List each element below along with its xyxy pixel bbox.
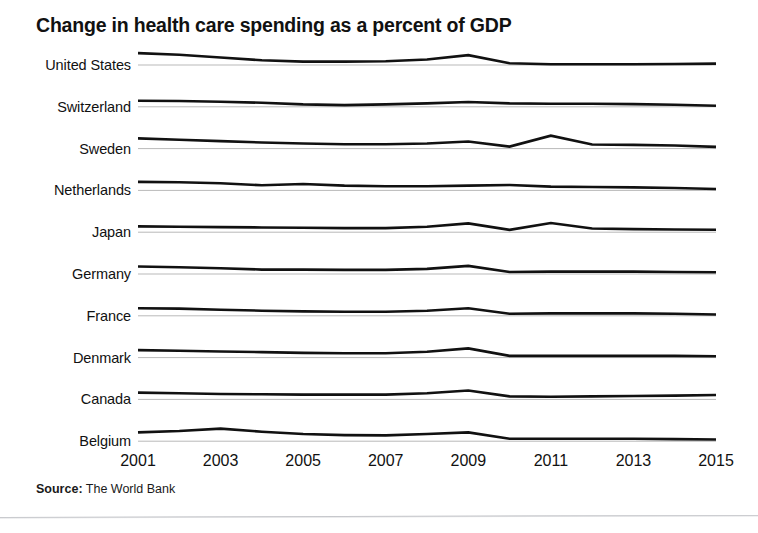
sparkline-chart-figure: Change in health care spending as a perc… [0, 0, 758, 533]
sparkline-series-switzerland [138, 101, 716, 106]
bottom-divider [0, 515, 758, 519]
x-axis-tick-labels: 20012003200520072009201120132015 [0, 452, 758, 480]
x-tick-2011: 2011 [534, 452, 568, 470]
x-tick-2005: 2005 [285, 452, 321, 470]
x-tick-2013: 2013 [616, 452, 652, 470]
page-title: Change in health care spending as a perc… [36, 14, 511, 37]
sparkline-series-netherlands [138, 182, 716, 189]
x-tick-2015: 2015 [698, 452, 734, 470]
x-tick-2007: 2007 [368, 452, 404, 470]
sparkline-series-japan [138, 223, 716, 230]
sparkline-series-denmark [138, 348, 716, 356]
sparkline-series-belgium [138, 429, 716, 440]
source-label: Source: [36, 482, 83, 496]
sparkline-plot-area [0, 46, 758, 456]
source-value: The World Bank [86, 482, 175, 496]
sparkline-series-canada [138, 391, 716, 397]
x-tick-2003: 2003 [203, 452, 239, 470]
sparkline-series-germany [138, 266, 716, 272]
sparkline-series-sweden [138, 136, 716, 147]
source-note: Source: The World Bank [36, 482, 175, 496]
sparkline-series-france [138, 308, 716, 314]
sparkline-series-united-states [138, 53, 716, 64]
x-tick-2001: 2001 [120, 452, 156, 470]
x-tick-2009: 2009 [450, 452, 486, 470]
